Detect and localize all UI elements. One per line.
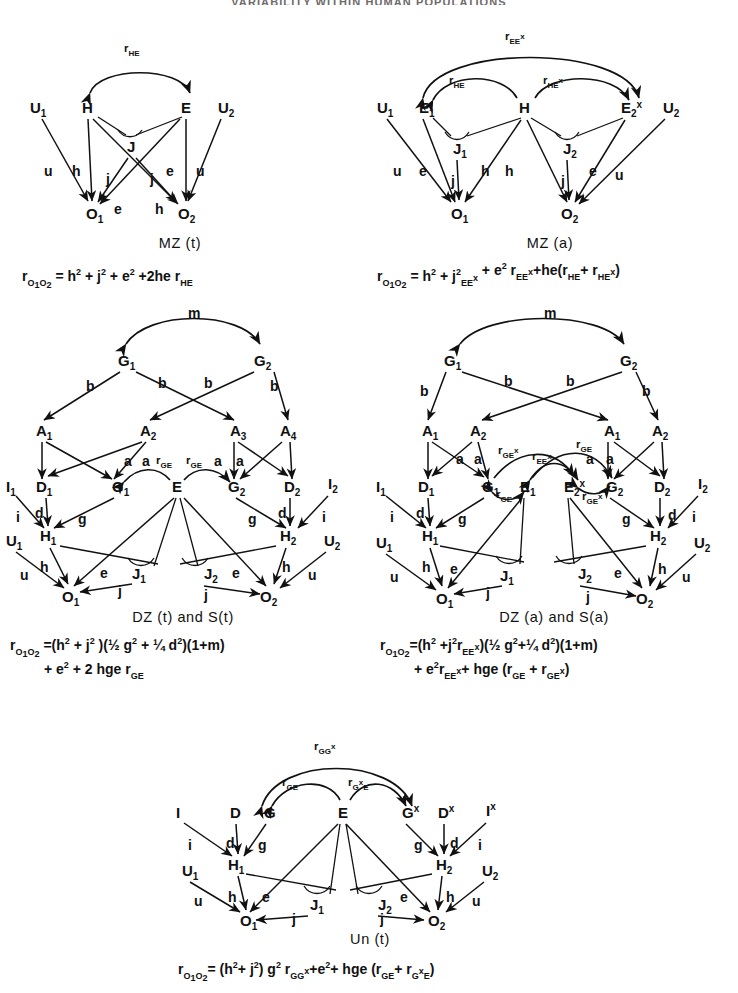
coef-u-right: u [472, 893, 481, 909]
caption-dz-t: DZ (t) and S(t) [132, 609, 234, 625]
path-J1-O1 [457, 160, 459, 200]
node-D1: D1 [418, 478, 435, 498]
coef-e-right: e [400, 889, 408, 905]
coef-j-right: j [379, 911, 384, 927]
node-J2: J2 [204, 565, 218, 585]
coef-a-2: a [474, 451, 482, 467]
path-E-J [136, 117, 182, 135]
path-A1R-D2 [614, 442, 660, 476]
coef-i-right: i [692, 509, 696, 525]
equation-text-dz-a-line1: rO1O2=(h2 +j2rEEx)(½ g2+¼ d2)(1+m) [380, 636, 598, 659]
node-D2: D2 [284, 478, 301, 498]
node-O2: O2 [636, 590, 654, 610]
coef-b-1: b [86, 378, 95, 394]
equation-text-mz-t: rO1O2 = h2 + j2 + e2 +2he rHE [22, 267, 193, 290]
running-header: VARIABILITY WITHIN HUMAN POPULATIONS [0, 0, 738, 5]
path-E2x-J2 [568, 498, 574, 564]
corr-label-m: m [544, 305, 556, 321]
coef-h-right: h [282, 559, 291, 575]
coef-h-left: h [422, 559, 431, 575]
coef-j-right: j [149, 171, 154, 187]
coef-b-2: b [158, 375, 167, 391]
equation-text-mz-a: rO1O2 = h2 + j2EEx + e2 rEEx+he(rHE+ rHE… [377, 261, 620, 290]
node-G1-mid: G1 [112, 478, 130, 498]
coef-h-right: h [446, 889, 455, 905]
figure-page: VARIABILITY WITHIN HUMAN POPULATIONS rHE… [0, 0, 738, 993]
path-E1-J1 [433, 118, 451, 136]
path-J1-O1 [80, 584, 132, 592]
path-E2x-O2 [575, 120, 625, 202]
coef-e-right: e [589, 163, 597, 179]
panel-dz-t: m G1 G2 A1 A2 A3 A4 b b b b a a a a rGE [8, 296, 358, 680]
node-U1: U1 [6, 532, 23, 552]
panel-dz-a: m G1 G2 A1 A2 A1 A2 b b b b a a a a rGEx [378, 296, 730, 680]
coef-e-cross: e [114, 201, 122, 217]
corr-label-rGEx-short-right: rGEx [582, 490, 603, 506]
caption-mz-a: MZ (a) [527, 235, 573, 251]
node-U1: U1 [30, 99, 47, 119]
coef-d-left: d [226, 835, 235, 851]
node-A1-left: A1 [422, 422, 439, 442]
path-D1-H1 [428, 498, 430, 526]
path-U1-O1 [387, 119, 451, 202]
node-A2-left: A2 [470, 422, 487, 442]
node-H: H [519, 99, 530, 116]
coef-g-right: g [248, 511, 257, 527]
coef-g-right: g [414, 837, 423, 853]
diagram-mz-a: rEEx rHE rHEx U1 E1 H E2x U2 J1 J2 O1 O2… [375, 18, 725, 238]
path-H2-J2 [180, 546, 276, 564]
corr-label-r-HE: rHE [124, 42, 140, 58]
node-J1: J1 [500, 567, 514, 587]
corr-label-rGEx-long: rGEx [498, 444, 519, 460]
coef-g-left: g [258, 837, 267, 853]
node-U2: U2 [694, 534, 711, 554]
path-U1-O1 [42, 119, 88, 201]
node-O1: O1 [240, 912, 258, 932]
coef-b-4: b [270, 378, 279, 394]
node-D1: D1 [36, 478, 53, 498]
coef-u-left: u [20, 567, 29, 583]
coef-u-left: u [393, 163, 402, 179]
coef-a-4: a [606, 451, 614, 467]
corr-label-rGE-left: rGE [156, 454, 173, 470]
node-I1: I1 [376, 478, 386, 498]
node-O2: O2 [428, 912, 446, 932]
node-U2: U2 [663, 99, 680, 119]
path-H-O2 [527, 120, 567, 202]
path-E1-J1 [520, 498, 524, 564]
node-J1: J1 [132, 565, 146, 585]
correlation-arc-rGE-left [124, 470, 170, 482]
coef-d-right: d [450, 835, 459, 851]
j2-arc [356, 886, 382, 894]
node-Ix: Ix [486, 801, 496, 819]
coef-a-4: a [236, 453, 244, 469]
coef-d-left: d [416, 505, 425, 521]
path-J1-O1 [256, 916, 308, 920]
path-G1-A1R [462, 372, 608, 420]
coef-g-left: g [78, 511, 87, 527]
path-G1-A1 [44, 372, 120, 420]
coef-j-left: j [291, 911, 296, 927]
coef-e-left: e [419, 163, 427, 179]
coef-g-left: g [458, 511, 467, 527]
node-J1: J1 [310, 896, 324, 916]
caption-dz-a: DZ (a) and S(a) [499, 609, 609, 625]
coef-a-1: a [124, 453, 132, 469]
coef-d-right: d [668, 507, 677, 523]
corr-label-rGxE: rGxE [348, 776, 369, 792]
node-I: I [176, 804, 180, 821]
coef-i-left: i [16, 509, 20, 525]
node-A4: A4 [280, 422, 297, 442]
node-U2: U2 [324, 532, 341, 552]
node-G2-top: G2 [254, 352, 272, 372]
coef-u-right: u [308, 567, 317, 583]
equation-text-dz-a-line2: + e2rEEx+ hge (rGE + rGEx) [414, 660, 569, 681]
path-U2-O2 [579, 119, 665, 204]
coef-a-2: a [142, 453, 150, 469]
coef-j-left: j [105, 171, 110, 187]
path-A4-D2 [290, 442, 292, 479]
coef-u-right: u [615, 167, 624, 183]
caption-mz-t: MZ (t) [159, 235, 201, 251]
equation-mz-a: rO1O2 = h2 + j2EEx + e2 rEEx+he(rHE+ rHE… [375, 255, 733, 289]
coef-d-right: d [278, 505, 287, 521]
